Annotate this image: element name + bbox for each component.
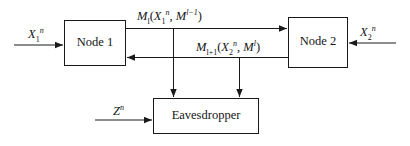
bwd-m2-base: M: [243, 40, 253, 54]
label-backward-message: Ml+1(X2n, Ml): [196, 40, 260, 57]
label-z: Zn: [113, 104, 124, 118]
fwd-m-base: M: [137, 9, 147, 23]
label-forward-message: Ml(X1n, Ml−1): [137, 9, 202, 26]
label-x1-sub: 1: [36, 35, 40, 44]
bwd-x-sub: 2: [229, 48, 233, 57]
label-x1: X1n: [28, 27, 44, 44]
label-z-sup: n: [120, 103, 124, 112]
label-x1-base: X: [28, 27, 36, 41]
label-z-base: Z: [113, 104, 120, 118]
node1-label: Node 1: [64, 36, 126, 49]
label-x1-sup: n: [40, 26, 44, 35]
fwd-m2-base: M: [176, 9, 186, 23]
bwd-x-base: X: [221, 40, 229, 54]
bwd-m-sub: l+1: [206, 48, 217, 57]
label-x2-sup: n: [372, 24, 376, 33]
label-x2: X2n: [360, 25, 376, 42]
fwd-m2-sup: l−1: [186, 8, 198, 17]
bwd-m-base: M: [196, 40, 206, 54]
fwd-x-sub: 1: [161, 17, 165, 26]
fwd-close-paren: ): [198, 9, 202, 23]
eavesdropper-label: Eavesdropper: [153, 109, 259, 122]
label-x2-base: X: [360, 25, 368, 39]
bwd-close-paren: ): [256, 40, 260, 54]
node2-label: Node 2: [288, 35, 348, 48]
label-x2-sub: 2: [368, 33, 372, 42]
block-diagram-figure: Node 1 Node 2 Eavesdropper X1n X2n Zn Ml…: [0, 0, 410, 146]
diagram-canvas: [0, 0, 410, 146]
